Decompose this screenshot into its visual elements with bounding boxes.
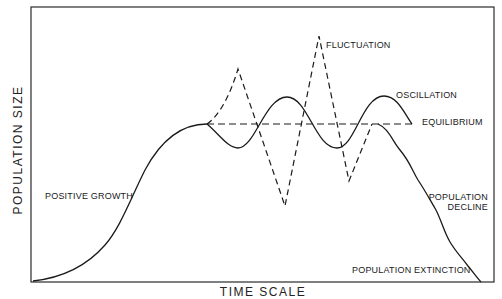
x-axis-label: TIME SCALE xyxy=(220,285,306,299)
oscillation-curve xyxy=(207,96,412,148)
label-population-extinction: POPULATION EXTINCTION xyxy=(352,265,471,275)
positive-growth-curve xyxy=(33,124,207,281)
label-positive-growth: POSITIVE GROWTH xyxy=(45,191,133,201)
label-population-decline-line2: DECLINE xyxy=(420,202,488,212)
y-axis-label: POPULATION SIZE xyxy=(11,86,25,215)
plot-frame xyxy=(31,7,494,282)
label-population-decline-line1: POPULATION xyxy=(420,192,488,202)
label-equilibrium: EQUILIBRIUM xyxy=(422,117,483,127)
label-fluctuation: FLUCTUATION xyxy=(326,40,391,50)
fluctuation-curve xyxy=(207,36,372,206)
label-oscillation: OSCILLATION xyxy=(396,90,457,100)
label-population-decline: POPULATION DECLINE xyxy=(420,192,488,212)
